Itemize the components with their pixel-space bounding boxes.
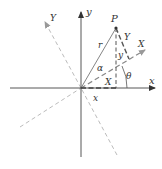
label-Y-segment: Y bbox=[124, 32, 131, 42]
label-X-segment: X bbox=[104, 77, 112, 87]
label-r: r bbox=[98, 40, 103, 50]
label-Y-axis: Y bbox=[50, 13, 57, 23]
Y-axis-negative bbox=[81, 88, 117, 155]
label-y-axis: y bbox=[85, 6, 92, 17]
rotation-diagram: y x Y X P r Y y α θ X x bbox=[0, 0, 162, 169]
label-theta: θ bbox=[126, 71, 132, 81]
label-x-axis: x bbox=[149, 75, 155, 86]
point-P bbox=[114, 26, 117, 29]
Y-axis-positive bbox=[45, 22, 81, 88]
standard-axes bbox=[10, 12, 155, 157]
label-X-axis: X bbox=[137, 39, 145, 49]
X-axis-negative bbox=[20, 88, 81, 127]
label-x-segment: x bbox=[93, 93, 98, 103]
diagram-svg: y x Y X P r Y y α θ X x bbox=[0, 0, 162, 169]
label-alpha: α bbox=[97, 63, 103, 73]
X-axis-positive bbox=[81, 50, 145, 88]
label-y-segment: y bbox=[117, 50, 124, 60]
label-P: P bbox=[110, 13, 118, 24]
